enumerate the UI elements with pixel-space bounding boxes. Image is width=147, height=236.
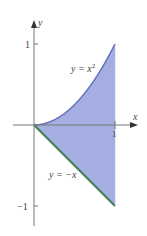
- label-y-equals-x-prefix: y = x: [70, 63, 92, 74]
- y-axis-label: y: [37, 17, 43, 28]
- label-y-equals-minus-x: y = −x: [48, 169, 77, 180]
- label-y-equals-x-squared: y = x2: [70, 62, 96, 74]
- region-diagram: y x 1 −1 1 y = x2 y = −x: [0, 0, 147, 236]
- y-tick-label-minus-1: −1: [17, 201, 28, 212]
- y-tick-label-1: 1: [25, 39, 30, 50]
- label-exponent: 2: [92, 62, 96, 70]
- y-axis-arrow-icon: [31, 20, 37, 28]
- x-axis-arrow-icon: [130, 122, 138, 128]
- x-axis-label: x: [132, 111, 138, 122]
- x-tick-label-1: 1: [112, 129, 117, 139]
